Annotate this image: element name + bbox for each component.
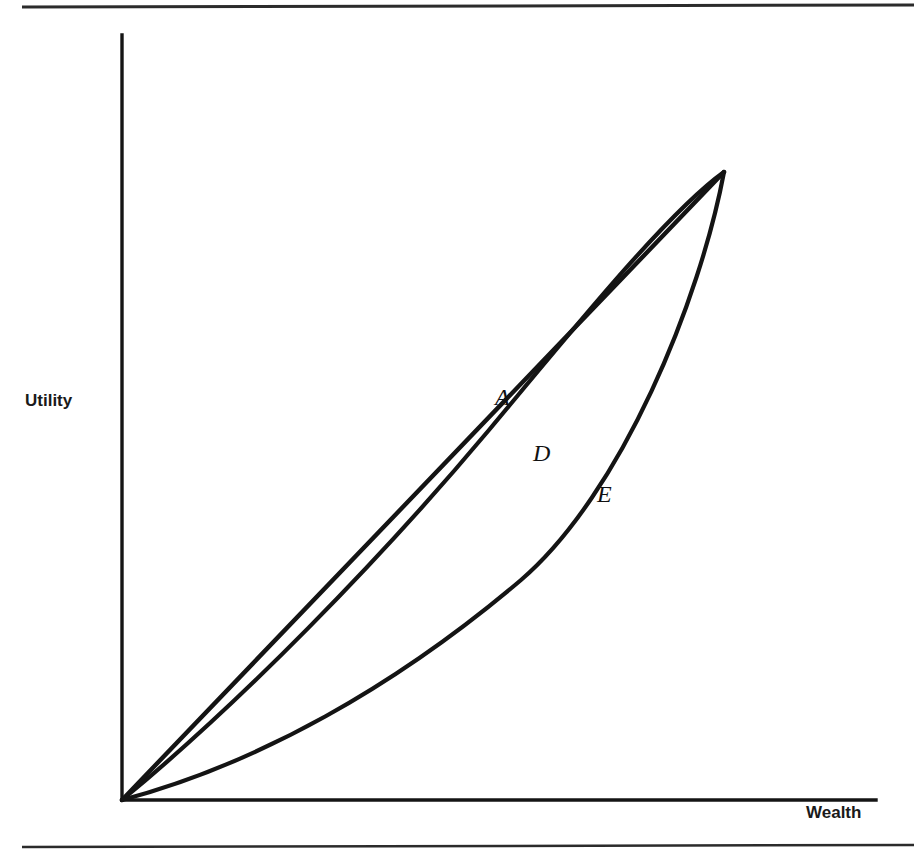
curve-d-label: D [532, 440, 550, 466]
utility-of-wealth-chart: Utility Wealth A D E [0, 0, 914, 856]
figure-background [0, 0, 914, 856]
y-axis-label: Utility [25, 391, 73, 410]
curve-e-label: E [596, 481, 612, 507]
curve-a-label: A [493, 384, 510, 410]
x-axis-label: Wealth [806, 803, 861, 822]
top-divider-rule [22, 5, 914, 7]
